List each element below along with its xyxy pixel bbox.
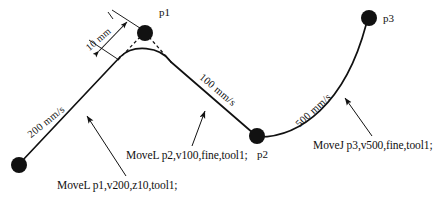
instruction-caption-3: MoveJ p3,v500,fine,tool1; bbox=[313, 140, 433, 152]
robot-path-diagram: p1 p2 p3 200 mm/s 100 mm/s 500 mm/s 10 m… bbox=[0, 0, 436, 204]
waypoint-label-p3: p3 bbox=[383, 13, 394, 24]
waypoint-dot-start bbox=[11, 157, 27, 173]
waypoint-label-p2: p2 bbox=[257, 149, 268, 160]
segment-p1-to-p2 bbox=[171, 62, 253, 133]
waypoint-dot-p1 bbox=[137, 25, 153, 41]
path-canvas bbox=[0, 0, 436, 204]
waypoint-dot-p2 bbox=[249, 128, 265, 144]
instruction-caption-2: MoveL p2,v100,fine,tool1; bbox=[126, 150, 248, 162]
leader-line-caption-2 bbox=[192, 111, 205, 146]
segment-start-to-p1 bbox=[22, 57, 120, 161]
waypoint-dot-p3 bbox=[361, 10, 377, 26]
dimension-tick-top bbox=[108, 12, 113, 19]
segment-p2-to-p3 bbox=[259, 25, 366, 137]
leader-line-caption-3 bbox=[345, 98, 372, 136]
leader-line-caption-1 bbox=[87, 116, 126, 176]
instruction-caption-1: MoveL p1,v200,z10,tool1; bbox=[57, 180, 177, 192]
dimension-extension-line-upper bbox=[112, 10, 143, 30]
leader-line-group bbox=[87, 98, 372, 176]
waypoint-label-p1: p1 bbox=[159, 7, 170, 18]
